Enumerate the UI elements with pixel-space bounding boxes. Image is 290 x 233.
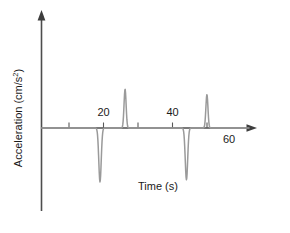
x-axis-title: Time (s): [138, 180, 178, 192]
acceleration-vs-time-plot: 20 40 60 Time (s) Acceleration (cm/s2): [0, 0, 290, 233]
x-tick-label-20: 20: [97, 106, 109, 118]
y-axis-title: Acceleration (cm/s2): [11, 69, 25, 167]
x-tick-label-60: 60: [223, 133, 235, 145]
y-axis-title-base: Acceleration (cm/s: [12, 76, 24, 167]
x-axis-ticks: [69, 123, 207, 129]
y-axis-title-close: ): [12, 69, 24, 73]
chart-figure: 20 40 60 Time (s) Acceleration (cm/s2): [0, 0, 290, 233]
x-tick-label-40: 40: [166, 106, 178, 118]
y-axis-arrow-icon: [38, 10, 46, 21]
acceleration-trace: [42, 89, 250, 182]
